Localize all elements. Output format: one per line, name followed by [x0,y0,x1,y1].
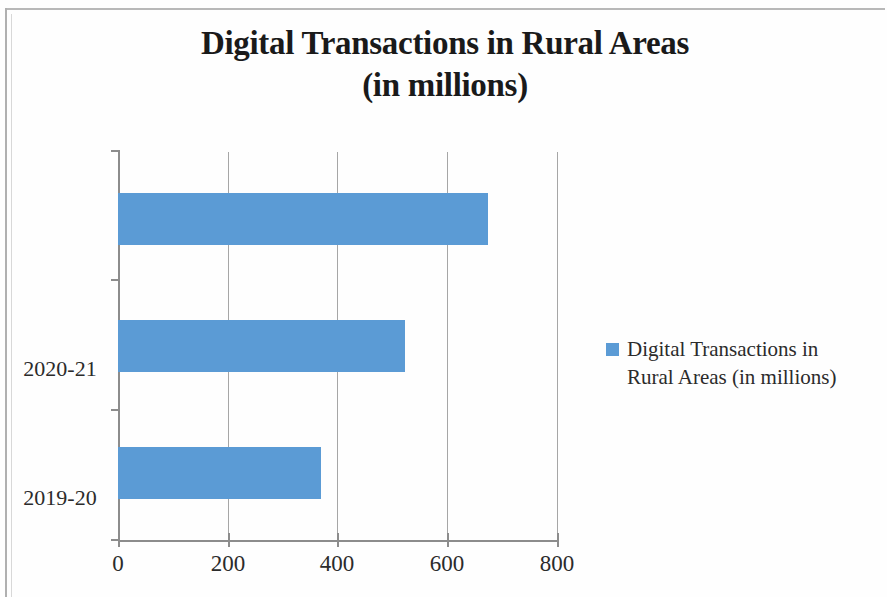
x-axis-tick-200 [228,533,230,547]
bar-2020-21[interactable] [118,193,488,245]
y-axis-tick-1 [111,279,118,281]
x-axis-tick-label-400: 400 [292,552,382,575]
x-axis-tick-600 [447,533,449,547]
page-frame-top-border [5,8,885,10]
x-axis-tick-label-600: 600 [402,552,492,575]
x-axis-tick-label-200: 200 [183,552,273,575]
x-axis-tick-800 [557,533,559,547]
legend-swatch-icon [606,343,619,356]
chart-title-line-2: (in millions) [60,64,830,106]
y-axis-label-2020-21: 2020-21 [8,358,112,380]
x-axis-tick-400 [337,533,339,547]
chart-title: Digital Transactions in Rural Areas (in … [60,22,830,106]
y-axis-tick-2 [111,409,118,411]
chart-title-line-1: Digital Transactions in Rural Areas [201,25,689,61]
legend-label-line-1: Digital Transactions in [627,337,818,361]
x-axis-tick-label-0: 0 [73,552,163,575]
bar-2019-20[interactable] [118,320,405,372]
chart-page: Digital Transactions in Rural Areas (in … [0,0,887,597]
legend-label-line-2: Rural Areas (in millions) [627,365,836,389]
chart-legend: Digital Transactions in Rural Areas (in … [606,336,866,391]
gridline-800 [557,152,558,540]
y-axis-tick-top [111,150,118,152]
y-axis-category-labels: 2020-21 2019-20 2018-19 [0,152,112,540]
y-axis-label-2019-20: 2019-20 [8,487,112,509]
x-axis-tick-0 [118,533,120,547]
legend-entry-label: Digital Transactions in Rural Areas (in … [627,336,855,391]
x-axis-tick-label-800: 800 [512,552,602,575]
bar-2018-19[interactable] [118,447,321,499]
plot-area [118,152,557,540]
x-axis-tick-labels: 0 200 400 600 800 [0,552,700,586]
y-axis-tick-bottom [111,539,118,541]
